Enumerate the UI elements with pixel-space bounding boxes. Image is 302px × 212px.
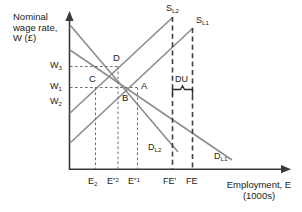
x-tick-label-fe-prime: FE' [163, 176, 176, 186]
y-axis-title-line3: W (£) [13, 33, 69, 44]
x-tick-estar2-sup: *2 [113, 176, 119, 183]
point-label-c-text: C [89, 73, 96, 84]
x-axis-title: Employment, E (1000s) [219, 180, 299, 201]
x-tick-estar1-sup: *1 [134, 176, 140, 183]
point-label-a-text: A [141, 80, 147, 91]
du-annotation-text: DU [175, 74, 188, 84]
y-tick-label-w2: W2 [50, 96, 62, 107]
x-tick-fe-text: FE [186, 176, 198, 186]
demand-curve-dl2 [70, 25, 178, 152]
du-bracket [173, 86, 193, 96]
fullemployment-lines-group [173, 17, 193, 169]
curve-label-dl2-sub: L2 [155, 146, 162, 153]
point-label-c: C [89, 74, 96, 85]
y-tick-label-w3: W3 [50, 60, 62, 71]
x-axis-title-line2: (1000s) [219, 191, 299, 202]
y-tick-w3-text: W [50, 60, 59, 70]
point-label-b: B [122, 93, 128, 104]
y-tick-w3-sub: 3 [59, 64, 62, 71]
du-annotation-label: DU [175, 74, 188, 84]
x-tick-label-fe: FE [186, 176, 198, 186]
curve-label-sl1: SL1 [196, 15, 209, 26]
x-axis-arrowhead [281, 165, 291, 173]
du-bracket-path [173, 86, 193, 96]
curve-label-sl1-sub: L1 [202, 19, 209, 26]
curve-label-sl2-sub: L2 [172, 7, 179, 14]
y-tick-w1-sub: 1 [59, 85, 62, 92]
curve-label-dl1: DL1 [214, 151, 227, 162]
point-label-b-text: B [122, 92, 128, 103]
curve-label-dl1-sub: L1 [221, 155, 228, 162]
x-tick-label-estar2: E*2 [107, 176, 119, 186]
y-tick-w1-text: W [50, 81, 59, 91]
x-tick-e2-sub: 2 [94, 180, 97, 187]
point-label-d: D [113, 53, 120, 64]
point-label-d-text: D [113, 52, 120, 63]
y-tick-w2-sub: 2 [59, 100, 62, 107]
supply-curve-sl1 [70, 28, 193, 143]
x-tick-fe-prime-text: FE' [163, 176, 176, 186]
point-label-a: A [141, 81, 147, 92]
y-axis-title: Nominal wage rate, W (£) [13, 12, 69, 44]
wage-employment-diagram: Nominal wage rate, W (£) Employment, E (… [0, 0, 302, 212]
axes-group [65, 11, 291, 173]
curves-group [70, 17, 232, 160]
y-tick-label-w1: W1 [50, 81, 62, 92]
x-tick-label-estar1: E*1 [128, 176, 140, 186]
x-tick-label-e2: E2 [88, 176, 97, 187]
y-tick-w2-text: W [50, 96, 59, 106]
curve-label-dl2: DL2 [148, 142, 161, 153]
curve-label-sl2: SL2 [166, 3, 179, 14]
